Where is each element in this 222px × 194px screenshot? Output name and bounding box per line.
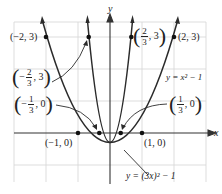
label-point-2thirds-3: (23, 3) (133, 25, 166, 47)
point-m2-3 (44, 35, 49, 40)
y-axis-arrow-icon (107, 14, 113, 22)
arrow-up-icon (130, 15, 134, 23)
point-1third-0 (118, 131, 123, 136)
label-point-m1-0: (−1, 0) (45, 138, 72, 148)
label-point-m2thirds-3: (−23, 3) (12, 66, 51, 88)
arrow-up-icon (86, 15, 90, 23)
point-2-3 (172, 35, 177, 40)
point-1-0 (140, 131, 145, 136)
label-point-1third-0: (13, 0) (169, 93, 202, 115)
label-point-m1third-0: (−13, 0) (14, 93, 53, 115)
equation-3x-squared-minus-1: y = (3x)² − 1 (126, 172, 175, 182)
y-axis-label: y (108, 4, 112, 14)
point-m1third-0 (97, 131, 102, 136)
label-point-1-0: (1, 0) (144, 138, 166, 148)
equation-x2-minus-1: y = x² − 1 (166, 73, 202, 82)
point-m1-0 (76, 131, 81, 136)
label-point-m2-3: (−2, 3) (10, 32, 37, 42)
x-axis-label: x (214, 128, 218, 138)
arrow-up-icon (40, 16, 45, 24)
arrow-up-icon (175, 16, 180, 24)
callout-arrowheads (83, 40, 126, 130)
point-m2thirds-3 (86, 35, 91, 40)
label-point-2-3: (2, 3) (178, 32, 200, 42)
